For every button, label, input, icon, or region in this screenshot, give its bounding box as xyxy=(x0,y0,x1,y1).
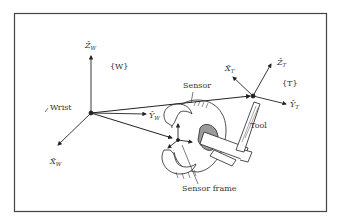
wrist-frame xyxy=(58,56,146,145)
tool-z-label: ẐT xyxy=(276,58,287,68)
wrist-frame-label: {W} xyxy=(110,62,128,71)
wrist-x-label: X̂W xyxy=(49,157,63,167)
tool-label: Tool xyxy=(250,121,267,130)
wrist-y-label: ŶW xyxy=(149,111,161,121)
tool-frame xyxy=(233,64,286,104)
wrist-x-axis xyxy=(58,113,91,145)
tool-x-axis xyxy=(233,77,253,96)
wrist-y-axis xyxy=(91,113,146,114)
wrist-sensor-tool-diagram: ẐW {W} Wrist ŶW X̂W Sensor Sensor frame … xyxy=(0,0,337,223)
wrist-z-label: ẐW xyxy=(84,41,98,51)
tool-y-axis xyxy=(253,96,286,104)
sensor-frame-label: Sensor frame xyxy=(182,184,237,193)
tool-x-label: X̂T xyxy=(224,64,235,74)
wrist-label: Wrist xyxy=(50,103,72,112)
tool-y-label: ŶT xyxy=(290,100,299,110)
sensor-label: Sensor xyxy=(183,81,211,90)
tool-frame-label: {T} xyxy=(282,79,298,88)
tool-z-axis xyxy=(253,64,271,96)
wrist-leader xyxy=(45,108,48,112)
